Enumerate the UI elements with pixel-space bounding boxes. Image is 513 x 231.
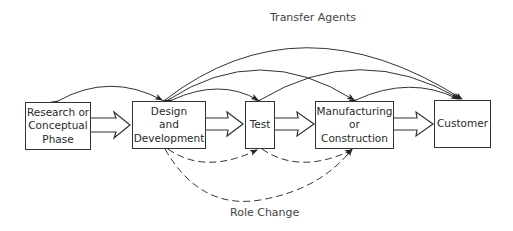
node-manufacturing: Manufacturing or Construction <box>315 101 394 149</box>
arc-research-design <box>58 86 162 101</box>
arc-design-manufacturing <box>168 70 354 100</box>
node-research: Research or Conceptual Phase <box>25 102 91 150</box>
node-manufacturing-label: Manufacturing or Construction <box>316 105 392 146</box>
role-arc-test-manufacturing <box>262 149 352 162</box>
arc-design-customer <box>165 48 462 100</box>
node-design-label: Design and Development <box>134 105 205 146</box>
node-test: Test <box>245 101 275 149</box>
role-arc-design-manufacturing <box>165 149 352 201</box>
node-design: Design and Development <box>132 101 206 149</box>
transfer-agents-label: Transfer Agents <box>270 11 356 24</box>
arc-test-customer <box>260 70 460 100</box>
flow-arrow-research-design <box>90 112 130 138</box>
node-customer-label: Customer <box>437 117 488 131</box>
node-research-label: Research or Conceptual Phase <box>27 106 89 147</box>
role-arc-design-test <box>168 149 257 162</box>
node-customer: Customer <box>434 100 491 148</box>
flow-arrow-manufacturing-customer <box>393 112 433 136</box>
flow-arrow-test-manufacturing <box>274 112 314 136</box>
node-test-label: Test <box>250 118 271 132</box>
role-change-label: Role Change <box>230 206 299 219</box>
arc-design-test <box>172 89 258 100</box>
flow-arrow-design-test <box>205 112 243 136</box>
